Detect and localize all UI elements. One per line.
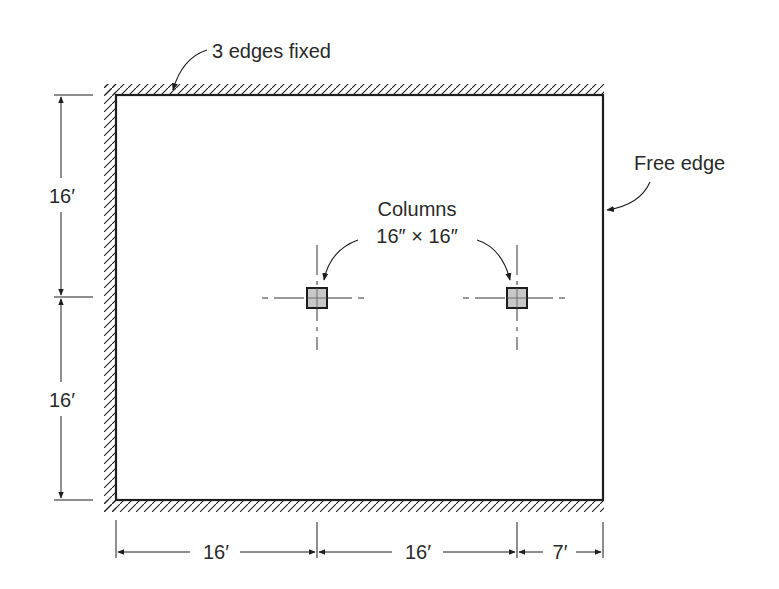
top-hatch [104,84,604,95]
columns-label: Columns [378,198,457,220]
columns-size-label: 16″ × 16″ [376,225,457,247]
left-hatch [104,84,116,512]
free-edge-leader-arrow [607,182,650,210]
horizontal-dimension [116,520,603,558]
vertical-dimension [54,95,93,500]
horizontal-dim-1: 16′ [203,541,229,563]
free-edge-label: Free edge [634,152,725,174]
fixed-edges-label: 3 edges fixed [212,40,331,62]
horizontal-dim-3: 7′ [553,541,568,563]
horizontal-dim-2: 16′ [405,541,431,563]
vertical-dim-upper: 16′ [49,185,75,207]
bottom-hatch [104,500,604,512]
slab-plan-diagram: Columns 16″ × 16″ 3 edges fixed Free edg… [0,0,779,589]
vertical-dim-lower: 16′ [49,389,75,411]
